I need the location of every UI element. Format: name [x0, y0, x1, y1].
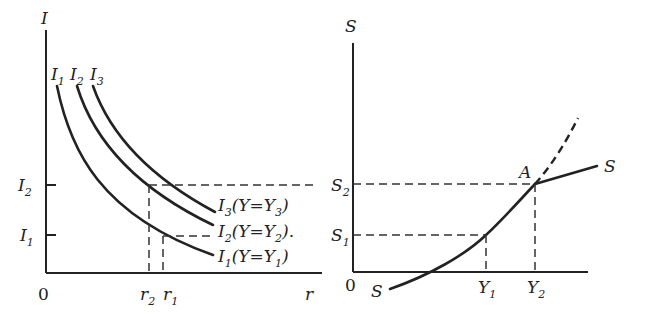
y-tick-label-S1: S1: [331, 225, 350, 249]
left-y-axis-label: I: [40, 8, 48, 28]
x-tick-label-Y1: Y1: [478, 277, 496, 301]
curve-label-I3-top: I3: [89, 64, 104, 88]
investment-curve-I1: [57, 86, 213, 255]
curve-end-label-I3: I3(Y=Y3): [217, 195, 289, 219]
x-tick-label-Y2: Y2: [527, 277, 545, 301]
x-tick-label-r2: r2: [140, 284, 155, 308]
curve-label-I1-top: I1: [50, 64, 65, 88]
right-origin-label: 0: [345, 275, 356, 295]
left-origin-label: 0: [38, 284, 49, 304]
right-panel-saving-curve: S 0 S2 S1 Y1 Y2 S S A: [331, 16, 616, 301]
investment-curve-I2: [77, 86, 213, 225]
curve-end-label-I1: I1(Y=Y1): [217, 246, 289, 270]
point-label-A: A: [517, 162, 531, 182]
curve-start-label-S: S: [371, 281, 383, 301]
saving-curve: [390, 184, 535, 289]
left-panel-investment-curves: I r 0 I2 I1 r2 r1 I1 I2 I3 I3(Y=Y3) I2(Y…: [17, 8, 322, 308]
y-tick-label-I2: I2: [17, 175, 32, 199]
curve-end-label-S: S: [604, 156, 616, 176]
curve-label-I2-top: I2: [69, 64, 84, 88]
left-x-axis-label: r: [305, 284, 314, 304]
right-y-axis-label: S: [345, 16, 357, 36]
x-tick-label-r1: r1: [163, 284, 178, 308]
y-tick-label-S2: S2: [331, 175, 350, 199]
curve-end-label-I2: I2(Y=Y2).: [217, 221, 294, 245]
saving-curve-kinked-segment: [535, 166, 597, 184]
diagram-canvas: I r 0 I2 I1 r2 r1 I1 I2 I3 I3(Y=Y3) I2(Y…: [0, 0, 649, 318]
y-tick-label-I1: I1: [19, 225, 34, 249]
